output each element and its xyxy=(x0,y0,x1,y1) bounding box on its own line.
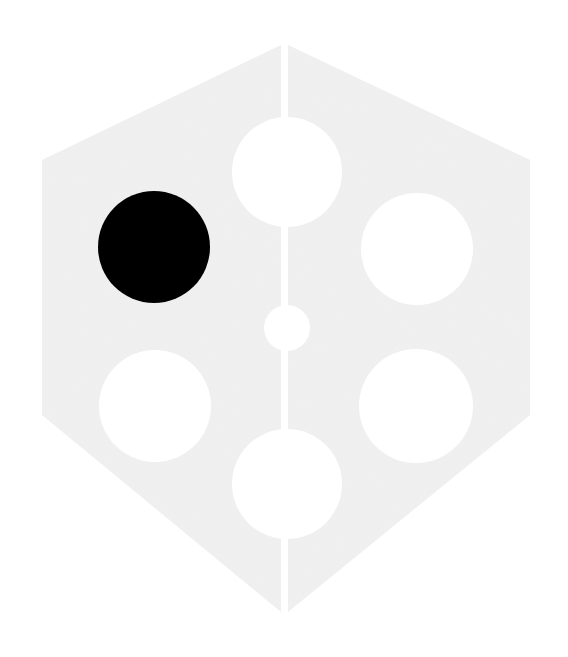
hexagon-right-half xyxy=(288,45,530,612)
lower-left-circle xyxy=(99,350,211,462)
center-small-circle xyxy=(264,305,310,351)
hexagon-left-half xyxy=(42,45,281,612)
lower-right-circle xyxy=(359,349,473,463)
hexagon-dot-graphic xyxy=(0,0,568,657)
upper-right-circle xyxy=(361,193,473,305)
upper-left-circle xyxy=(98,191,210,303)
bottom-circle xyxy=(232,429,342,539)
hexagon-dot-logo xyxy=(0,0,568,657)
top-circle xyxy=(232,117,342,227)
